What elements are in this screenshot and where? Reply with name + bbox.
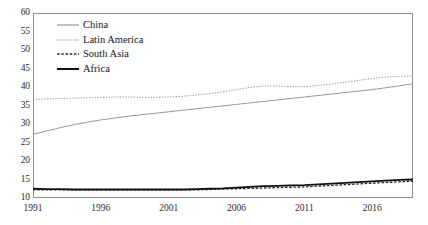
legend-item-africa[interactable]: Africa (57, 62, 207, 76)
x-axis-tick-label: 2001 (159, 203, 178, 213)
legend-item-latin-america[interactable]: Latin America (57, 33, 207, 47)
legend-item-south-asia[interactable]: South Asia (57, 47, 207, 61)
x-axis-tick-label: 1991 (24, 203, 43, 213)
chart-legend: ChinaLatin AmericaSouth AsiaAfrica (57, 18, 207, 76)
legend-item-label: South Asia (83, 48, 129, 60)
legend-line-swatch-icon (57, 48, 79, 60)
line-chart: 1015202530354045505560 19911996200120062… (0, 0, 428, 225)
x-axis-tick-label: 1996 (91, 203, 110, 213)
legend-line-swatch-icon (57, 19, 79, 31)
legend-item-china[interactable]: China (57, 18, 207, 32)
x-axis-tick-label: 2011 (295, 203, 314, 213)
legend-line-swatch-icon (57, 34, 79, 46)
x-axis-tick-label: 2006 (227, 203, 246, 213)
legend-item-label: Africa (83, 63, 110, 75)
legend-item-label: Latin America (83, 34, 143, 46)
x-axis-tick-label: 2016 (363, 203, 382, 213)
legend-item-label: China (83, 19, 108, 31)
legend-line-swatch-icon (57, 63, 79, 75)
